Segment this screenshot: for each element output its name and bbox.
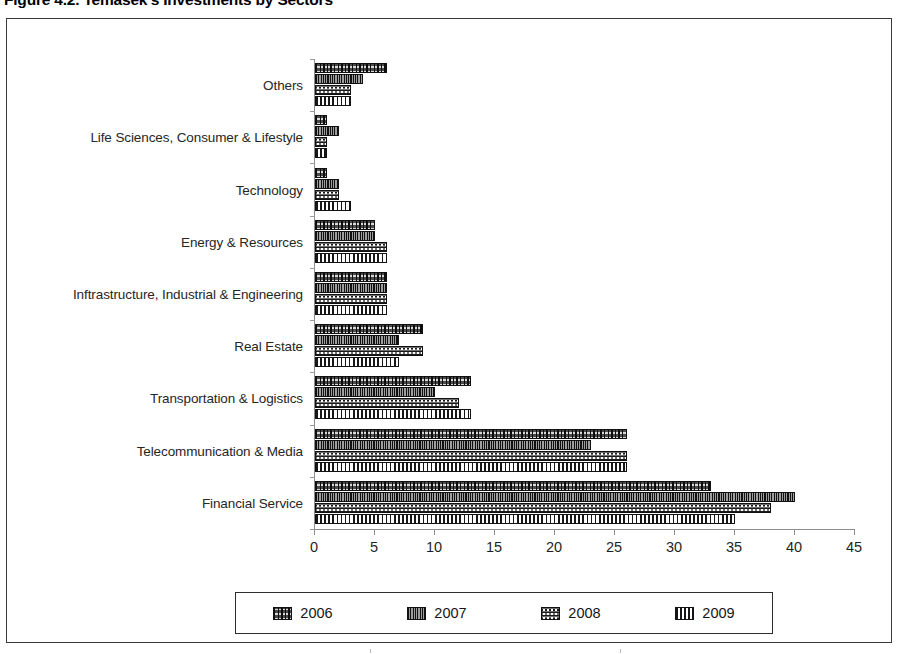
category-group: Inftrastructure, Industrial & Engineerin… xyxy=(314,268,854,320)
page-artifact xyxy=(620,649,621,653)
category-group: Real Estate xyxy=(314,320,854,372)
value-axis-tick xyxy=(374,529,375,535)
bar-2006-others xyxy=(315,63,387,73)
value-axis-label: 0 xyxy=(310,539,318,555)
bar-2008-energy-resources xyxy=(315,242,387,252)
chart-legend: 2006200720082009 xyxy=(235,592,773,634)
category-axis-tick xyxy=(310,59,315,60)
value-axis-tick xyxy=(734,529,735,535)
category-group: Transportation & Logistics xyxy=(314,372,854,424)
category-group: Financial Service xyxy=(314,477,854,529)
legend-swatch-2009 xyxy=(675,607,694,620)
bar-2006-financial-service xyxy=(315,481,711,491)
category-group: Life Sciences, Consumer & Lifestyle xyxy=(314,111,854,163)
bar-2009-financial-service xyxy=(315,514,735,524)
legend-item-2007[interactable]: 2007 xyxy=(407,605,466,621)
value-axis-label: 40 xyxy=(786,539,802,555)
category-axis-tick xyxy=(310,268,315,269)
value-axis-label: 20 xyxy=(546,539,562,555)
bar-2009-technology xyxy=(315,201,351,211)
legend-item-2009[interactable]: 2009 xyxy=(675,605,734,621)
category-axis-label: Inftrastructure, Industrial & Engineerin… xyxy=(73,286,303,301)
bar-2006-inftrastructure-industrial-engineering xyxy=(315,272,387,282)
category-axis-tick xyxy=(310,163,315,164)
category-axis-tick xyxy=(310,425,315,426)
page-artifact xyxy=(370,649,371,653)
legend-item-2008[interactable]: 2008 xyxy=(541,605,600,621)
bar-2008-life-sciences-consumer-lifestyle xyxy=(315,137,327,147)
category-axis-label: Financial Service xyxy=(202,495,303,510)
bar-2007-telecommunication-media xyxy=(315,440,591,450)
category-axis-tick xyxy=(310,372,315,373)
legend-label-2006: 2006 xyxy=(300,605,332,621)
bar-2007-energy-resources xyxy=(315,231,375,241)
bar-2006-real-estate xyxy=(315,324,423,334)
plot-area: OthersLife Sciences, Consumer & Lifestyl… xyxy=(314,59,854,529)
bar-2009-inftrastructure-industrial-engineering xyxy=(315,305,387,315)
bar-2006-energy-resources xyxy=(315,220,375,230)
legend-label-2009: 2009 xyxy=(702,605,734,621)
bar-2009-real-estate xyxy=(315,357,399,367)
bar-2007-others xyxy=(315,74,363,84)
value-axis-tick xyxy=(434,529,435,535)
bar-2009-life-sciences-consumer-lifestyle xyxy=(315,148,327,158)
bar-2008-transportation-logistics xyxy=(315,398,459,408)
category-group: Technology xyxy=(314,163,854,215)
category-axis-label: Energy & Resources xyxy=(181,234,303,249)
value-axis-label: 5 xyxy=(370,539,378,555)
category-axis-label: Real Estate xyxy=(234,339,303,354)
value-axis-tick xyxy=(314,529,315,535)
bar-2008-financial-service xyxy=(315,503,771,513)
category-axis-tick xyxy=(310,320,315,321)
value-axis-label: 25 xyxy=(606,539,622,555)
figure-title: Figure 4.2. Temasek's Investments by Sec… xyxy=(4,0,333,9)
legend-swatch-2008 xyxy=(541,607,560,620)
bar-2007-inftrastructure-industrial-engineering xyxy=(315,283,387,293)
category-group: Energy & Resources xyxy=(314,216,854,268)
category-axis-label: Others xyxy=(263,78,303,93)
value-axis-label: 35 xyxy=(726,539,742,555)
bar-2007-real-estate xyxy=(315,335,399,345)
value-axis-tick xyxy=(674,529,675,535)
bar-2009-transportation-logistics xyxy=(315,409,471,419)
category-axis-label: Life Sciences, Consumer & Lifestyle xyxy=(90,130,303,145)
bar-2009-telecommunication-media xyxy=(315,462,627,472)
category-axis-tick xyxy=(310,111,315,112)
value-axis-tick xyxy=(614,529,615,535)
value-axis-label: 30 xyxy=(666,539,682,555)
bar-2009-others xyxy=(315,96,351,106)
category-axis-tick xyxy=(310,477,315,478)
value-axis-label: 45 xyxy=(846,539,862,555)
bar-2009-energy-resources xyxy=(315,253,387,263)
chart-frame: OthersLife Sciences, Consumer & Lifestyl… xyxy=(6,18,892,643)
category-group: Telecommunication & Media xyxy=(314,425,854,477)
value-axis-tick xyxy=(854,529,855,535)
category-axis-label: Transportation & Logistics xyxy=(150,391,303,406)
legend-item-2006[interactable]: 2006 xyxy=(273,605,332,621)
bar-2008-real-estate xyxy=(315,346,423,356)
legend-label-2008: 2008 xyxy=(568,605,600,621)
bar-2008-others xyxy=(315,85,351,95)
bar-2007-financial-service xyxy=(315,492,795,502)
value-axis-label: 15 xyxy=(486,539,502,555)
value-axis-tick xyxy=(494,529,495,535)
bar-2006-transportation-logistics xyxy=(315,376,471,386)
category-group: Others xyxy=(314,59,854,111)
legend-label-2007: 2007 xyxy=(434,605,466,621)
bar-2007-transportation-logistics xyxy=(315,387,435,397)
category-axis-label: Telecommunication & Media xyxy=(137,443,303,458)
value-axis-tick xyxy=(794,529,795,535)
legend-swatch-2007 xyxy=(407,607,426,620)
legend-swatch-2006 xyxy=(273,607,292,620)
category-axis-label: Technology xyxy=(236,182,303,197)
bar-2007-life-sciences-consumer-lifestyle xyxy=(315,126,339,136)
bar-2008-technology xyxy=(315,190,339,200)
value-axis-line xyxy=(314,529,855,530)
bar-2006-telecommunication-media xyxy=(315,429,627,439)
value-axis-tick xyxy=(554,529,555,535)
bar-2006-technology xyxy=(315,168,327,178)
category-axis-tick xyxy=(310,216,315,217)
bar-2008-inftrastructure-industrial-engineering xyxy=(315,294,387,304)
value-axis-label: 10 xyxy=(426,539,442,555)
bar-2006-life-sciences-consumer-lifestyle xyxy=(315,115,327,125)
